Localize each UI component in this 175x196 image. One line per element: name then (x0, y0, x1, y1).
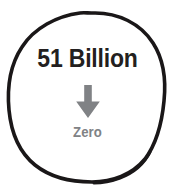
arrow-down-container (0, 85, 175, 119)
callout-content: 51 Billion Zero (0, 0, 175, 196)
headline-text: 51 Billion (7, 44, 168, 72)
footnote-text: Zero (5, 124, 170, 141)
arrow-down-icon (74, 85, 102, 119)
infographic-canvas: 51 Billion Zero (0, 0, 175, 196)
